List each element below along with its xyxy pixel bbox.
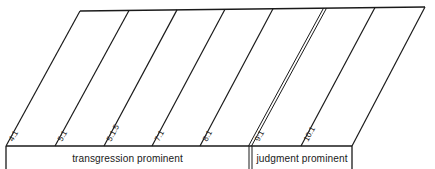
ratio-label: 5:1 <box>56 128 69 143</box>
ratio-label: 5:1.5 <box>105 123 122 143</box>
ratio-label: 4:1 <box>7 128 21 143</box>
ratio-line <box>352 7 425 146</box>
region-label-transgression: transgression prominent <box>16 148 240 168</box>
ratio-parallelogram-diagram: 4:15:15:1.57:18:19:110:1 <box>0 0 435 169</box>
ratio-line <box>6 11 80 146</box>
ratio-label: 9:1 <box>253 128 266 143</box>
ratio-line <box>152 9 225 146</box>
ratio-labels: 4:15:15:1.57:18:19:110:1 <box>7 123 318 143</box>
ratio-label: 8:1 <box>201 128 214 143</box>
region-label-judgment: judgment prominent <box>256 148 348 168</box>
ratio-slant-lines <box>6 7 425 146</box>
ratio-label: 10:1 <box>302 124 318 142</box>
ratio-line <box>200 9 273 146</box>
ratio-label: 7:1 <box>153 128 166 143</box>
